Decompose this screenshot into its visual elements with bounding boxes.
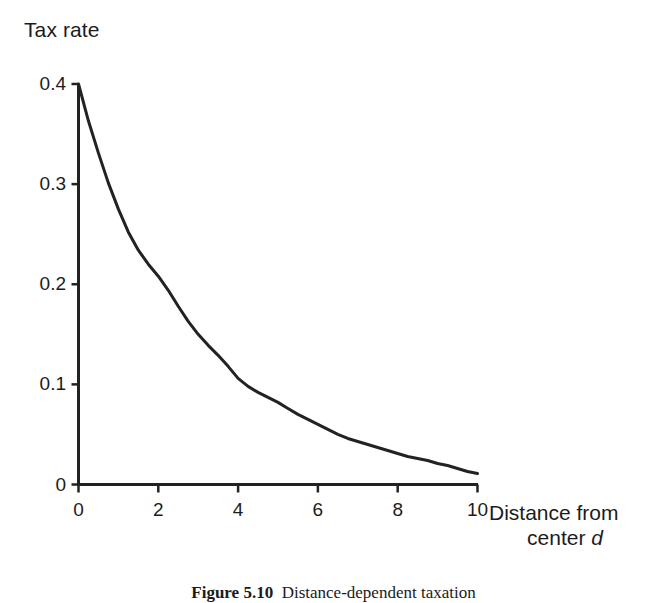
x-tick-label: 0 (59, 499, 99, 521)
x-axis-title-line1: Distance from (489, 501, 619, 524)
y-tick-label: 0.3 (8, 173, 66, 195)
figure-number: Figure 5.10 (191, 583, 273, 602)
x-tick-label: 4 (218, 499, 258, 521)
data-series-line (79, 84, 478, 473)
figure-caption-body: Distance-dependent taxation (282, 583, 476, 602)
x-tick-label: 2 (138, 499, 178, 521)
x-axis-title: Distance from center d (489, 500, 667, 550)
axes-group (77, 84, 478, 485)
figure-caption: Figure 5.10 Distance-dependent taxation (0, 583, 667, 603)
x-tick-label: 8 (378, 499, 418, 521)
y-tick-label: 0.4 (8, 73, 66, 95)
y-tick-label: 0.1 (8, 373, 66, 395)
x-axis-title-line2-prefix: center (527, 526, 591, 549)
x-axis-title-line2: center d (489, 525, 641, 550)
y-tick-label: 0.2 (8, 273, 66, 295)
x-tick-label: 6 (298, 499, 338, 521)
x-axis-variable-d: d (591, 526, 603, 549)
y-tick-label: 0 (8, 474, 66, 496)
figure-caption-text: Distance-dependent taxation (273, 583, 476, 602)
